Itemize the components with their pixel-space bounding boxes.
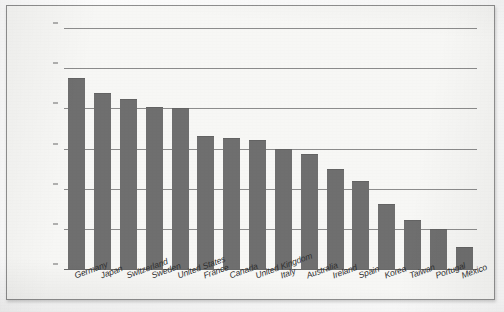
chart-frame: $0$5$10$15$20$25$30 GermanyJapanSwitzerl… xyxy=(6,5,495,300)
gridline xyxy=(64,28,477,29)
y-tick-mark xyxy=(53,103,58,104)
y-tick-mark xyxy=(53,183,58,184)
y-axis: $0$5$10$15$20$25$30 xyxy=(7,6,57,312)
bar xyxy=(172,108,189,269)
x-axis: GermanyJapanSwitzerlandSwedenUnited Stat… xyxy=(64,271,494,312)
bar xyxy=(120,99,137,269)
figure: $0$5$10$15$20$25$30 GermanyJapanSwitzerl… xyxy=(0,0,504,312)
bar xyxy=(275,149,292,269)
plot-area xyxy=(64,28,477,269)
bar xyxy=(378,204,395,269)
bar xyxy=(249,140,266,269)
bar xyxy=(327,169,344,269)
bar xyxy=(68,78,85,269)
y-tick-mark xyxy=(53,223,58,224)
y-tick-mark xyxy=(53,23,58,24)
y-tick-mark xyxy=(53,143,58,144)
bar xyxy=(352,181,369,269)
y-tick-mark xyxy=(53,63,58,64)
bar xyxy=(223,138,240,269)
bar xyxy=(146,107,163,269)
y-tick-mark xyxy=(53,264,58,265)
bar xyxy=(94,93,111,269)
bar xyxy=(404,220,421,269)
gridline xyxy=(64,68,477,69)
bar xyxy=(197,136,214,269)
